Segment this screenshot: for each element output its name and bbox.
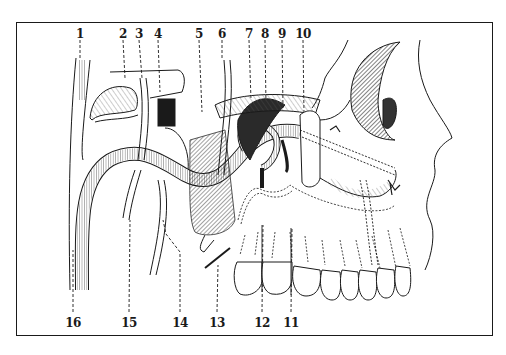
label-9: 9 [278,28,286,40]
mandible-ramus [190,130,235,268]
label-1: 1 [76,28,84,40]
label-5: 5 [195,28,203,40]
maxillary-sinus [238,185,410,268]
anatomy-illustration [0,0,506,355]
label-3: 3 [135,28,143,40]
label-4: 4 [154,28,162,40]
ear [90,87,138,122]
zygomatic-bone [300,100,350,187]
label-14: 14 [172,317,188,329]
label-13: 13 [209,317,225,329]
label-15: 15 [121,317,137,329]
label-10: 10 [295,28,311,40]
label-7: 7 [245,28,253,40]
label-8: 8 [261,28,269,40]
orbit [351,42,400,140]
label-16: 16 [65,317,81,329]
label-2: 2 [119,28,127,40]
label-6: 6 [218,28,226,40]
upper-teeth [234,262,411,300]
label-11: 11 [283,317,299,329]
label-12: 12 [254,317,270,329]
